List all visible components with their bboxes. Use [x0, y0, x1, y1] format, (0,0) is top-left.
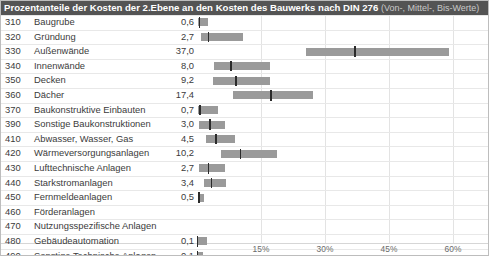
mean-marker: [211, 178, 213, 188]
range-bar: [213, 77, 270, 85]
chart-title-subtitle: (Von-, Mittel-, Bis-Werte): [381, 3, 479, 13]
table-row[interactable]: 440Starkstromanlagen3,4: [1, 176, 489, 191]
table-row[interactable]: 330Außenwände37,0: [1, 44, 489, 59]
row-value: 2,7: [101, 162, 194, 173]
range-bar: [199, 164, 225, 172]
mean-marker: [270, 90, 272, 100]
row-code: 430: [5, 162, 31, 173]
row-code: 420: [5, 147, 31, 158]
mean-marker: [240, 149, 242, 159]
row-label: Nutzungsspezifische Anlagen: [34, 220, 156, 231]
range-bar: [206, 135, 235, 143]
table-row[interactable]: 370Baukonstruktive Einbauten0,7: [1, 103, 489, 118]
row-label: Baugrube: [34, 16, 75, 27]
table-row[interactable]: 390Sonstige Baukonstruktionen3,0: [1, 117, 489, 132]
row-code: 340: [5, 60, 31, 71]
row-code: 410: [5, 133, 31, 144]
mean-marker: [354, 46, 356, 56]
x-tick-label: 45%: [381, 244, 398, 254]
row-value: 17,4: [101, 89, 194, 100]
table-row[interactable]: 460Förderanlagen: [1, 205, 489, 220]
chart-title-main: Prozentanteile der Kosten der 2.Ebene an…: [4, 2, 378, 13]
table-row[interactable]: 470Nutzungsspezifische Anlagen: [1, 219, 489, 234]
row-code: 330: [5, 45, 31, 56]
x-tick-label: 30%: [317, 244, 334, 254]
x-axis-tick-labels: 15%30%45%60%: [1, 244, 489, 256]
range-bar: [306, 48, 449, 56]
row-code: 350: [5, 74, 31, 85]
row-value: 0,6: [101, 16, 194, 27]
mean-marker: [198, 192, 200, 202]
row-label: Decken: [34, 74, 66, 85]
row-value: 37,0: [101, 45, 194, 56]
row-value: 8,0: [101, 60, 194, 71]
range-bar: [198, 106, 218, 114]
row-code: 440: [5, 177, 31, 188]
row-value: 10,2: [101, 147, 194, 158]
table-row[interactable]: 410Abwasser, Wasser, Gas4,5: [1, 132, 489, 147]
mean-marker: [209, 119, 211, 129]
row-code: 390: [5, 118, 31, 129]
row-code: 450: [5, 191, 31, 202]
row-label: Dächer: [34, 89, 64, 100]
mean-marker: [199, 105, 201, 115]
mean-marker: [215, 134, 217, 144]
row-label: Förderanlagen: [34, 206, 95, 217]
table-row[interactable]: 420Wärmeversorgungsanlagen10,2: [1, 146, 489, 161]
row-label: Außenwände: [34, 45, 89, 56]
table-row[interactable]: 320Gründung2,7: [1, 30, 489, 45]
row-value: 4,5: [101, 133, 194, 144]
table-row[interactable]: 310Baugrube0,6: [1, 15, 489, 30]
row-code: 370: [5, 104, 31, 115]
range-bar: [233, 91, 313, 99]
row-value: 9,2: [101, 74, 194, 85]
row-value: 0,7: [101, 104, 194, 115]
row-code: 320: [5, 31, 31, 42]
table-row[interactable]: 340Innenwände8,0: [1, 59, 489, 74]
mean-marker: [235, 76, 237, 86]
table-row[interactable]: 430Lufttechnische Anlagen2,7: [1, 161, 489, 176]
chart-title-bar: Prozentanteile der Kosten der 2.Ebene an…: [1, 1, 489, 15]
mean-marker: [208, 163, 210, 173]
row-code: 310: [5, 16, 31, 27]
row-label: Gründung: [34, 31, 76, 42]
mean-marker: [230, 61, 232, 71]
chart-rows: 310Baugrube0,6320Gründung2,7330Außenwänd…: [1, 15, 489, 243]
mean-marker: [208, 32, 210, 42]
row-value: 3,4: [101, 177, 194, 188]
range-bar: [221, 150, 277, 158]
row-value: 2,7: [101, 31, 194, 42]
x-tick-label: 60%: [445, 244, 462, 254]
range-bar: [214, 62, 269, 70]
row-code: 470: [5, 220, 31, 231]
row-code: 460: [5, 206, 31, 217]
row-value: 0,5: [101, 191, 194, 202]
row-value: 3,0: [101, 118, 194, 129]
chart-container: Prozentanteile der Kosten der 2.Ebene an…: [0, 0, 489, 256]
range-bar: [204, 179, 226, 187]
x-tick-label: 15%: [253, 244, 270, 254]
row-label: Innenwände: [34, 60, 85, 71]
table-row[interactable]: 350Decken9,2: [1, 73, 489, 88]
table-row[interactable]: 360Dächer17,4: [1, 88, 489, 103]
range-bar: [199, 121, 225, 129]
row-code: 360: [5, 89, 31, 100]
table-row[interactable]: 450Fernmeldeanlagen0,5: [1, 190, 489, 205]
mean-marker: [199, 17, 201, 27]
